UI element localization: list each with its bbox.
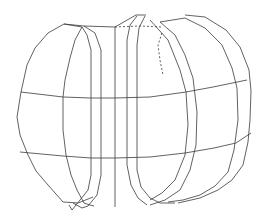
inner-arch-2	[73, 26, 101, 208]
top-hidden-edge	[115, 26, 162, 27]
right-hidden-arch	[158, 33, 163, 75]
left-outer-lobe	[17, 24, 93, 203]
right-outer-lobe	[178, 15, 251, 203]
right-arch-3	[150, 20, 188, 200]
top-ridge	[64, 15, 146, 27]
inner-arch-1	[69, 27, 91, 210]
wireframe-svg	[0, 0, 267, 223]
left-inner-lobe	[63, 27, 94, 206]
upper-belt	[21, 80, 247, 98]
wireframe-figure	[0, 0, 267, 223]
lower-belt	[20, 133, 251, 158]
right-mid-lobe	[160, 18, 238, 202]
right-inner-lobe	[150, 22, 197, 205]
